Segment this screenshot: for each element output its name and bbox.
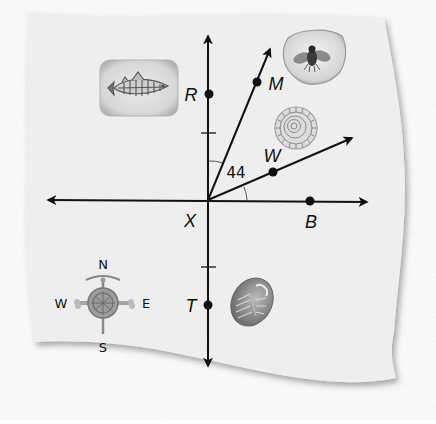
label-W: W xyxy=(264,146,283,166)
compass-west-label: W xyxy=(55,296,68,311)
label-X: X xyxy=(183,211,197,231)
compass-north-label: N xyxy=(98,257,108,272)
angle-measure-label: 44 xyxy=(226,164,245,182)
point-R xyxy=(205,90,214,99)
geometry-diagram: N S W E R M W X B T 44 xyxy=(0,0,436,424)
point-M xyxy=(253,78,262,87)
label-R: R xyxy=(185,85,198,105)
compass-south-label: S xyxy=(99,340,107,355)
compass-east-label: E xyxy=(142,296,150,311)
ammonite-fossil-illustration xyxy=(275,107,317,149)
point-T xyxy=(204,301,213,310)
point-W xyxy=(269,168,278,177)
label-M: M xyxy=(269,74,284,94)
fish-fossil-illustration xyxy=(100,60,178,116)
label-B: B xyxy=(305,212,317,232)
point-B xyxy=(306,197,315,206)
